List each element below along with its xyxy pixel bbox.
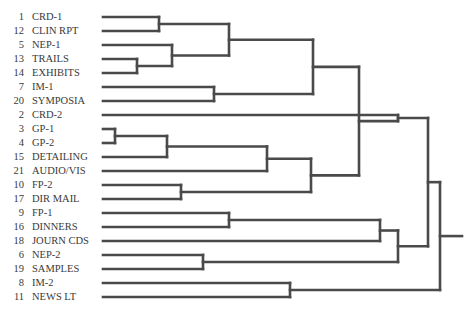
dendrogram-tree	[0, 0, 472, 318]
